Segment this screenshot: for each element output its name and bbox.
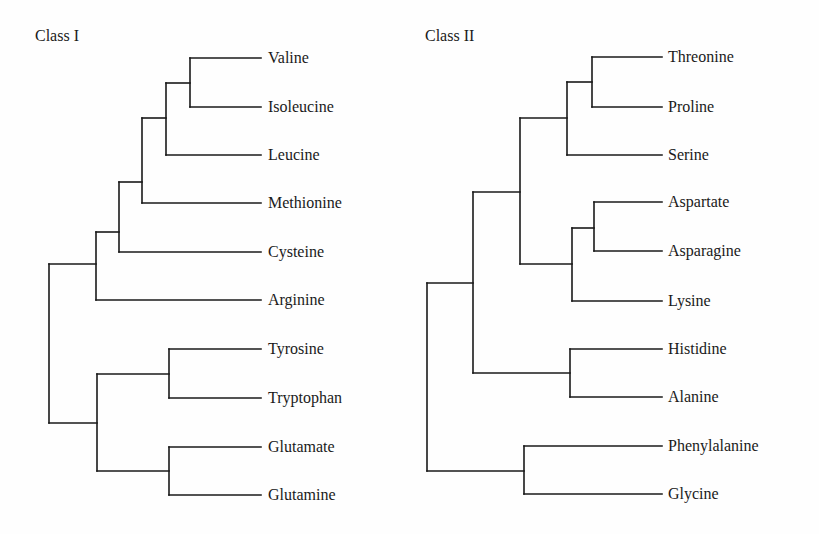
class-i-leaf-labels: ValineIsoleucineLeucineMethionineCystein…: [268, 49, 342, 503]
class-ii-branches: [427, 57, 662, 494]
leaf-label: Tyrosine: [268, 340, 324, 358]
dendrogram-figure: Class I ValineIsoleucineLeucineMethionin…: [0, 0, 819, 534]
class-ii-tree: Class II ThreonineProlineSerineAspartate…: [425, 27, 759, 503]
leaf-label: Lysine: [668, 292, 711, 310]
leaf-label: Cysteine: [268, 243, 324, 261]
leaf-label: Phenylalanine: [668, 437, 759, 455]
leaf-label: Asparagine: [668, 242, 741, 260]
leaf-label: Threonine: [668, 48, 734, 65]
leaf-label: Methionine: [268, 194, 342, 211]
class-ii-title: Class II: [425, 27, 474, 44]
leaf-label: Glutamate: [268, 438, 335, 455]
class-i-tree: Class I ValineIsoleucineLeucineMethionin…: [35, 27, 342, 503]
leaf-label: Tryptophan: [268, 389, 342, 407]
leaf-label: Glutamine: [268, 486, 336, 503]
class-i-title: Class I: [35, 27, 79, 44]
leaf-label: Glycine: [668, 485, 719, 503]
class-i-branches: [49, 58, 261, 495]
leaf-label: Histidine: [668, 340, 727, 357]
class-ii-leaf-labels: ThreonineProlineSerineAspartateAsparagin…: [668, 48, 759, 503]
leaf-label: Leucine: [268, 146, 320, 163]
leaf-label: Proline: [668, 98, 714, 115]
leaf-label: Aspartate: [668, 193, 729, 211]
leaf-label: Serine: [668, 146, 709, 163]
leaf-label: Alanine: [668, 388, 719, 405]
leaf-label: Isoleucine: [268, 98, 334, 115]
leaf-label: Arginine: [268, 291, 325, 309]
leaf-label: Valine: [268, 49, 309, 66]
